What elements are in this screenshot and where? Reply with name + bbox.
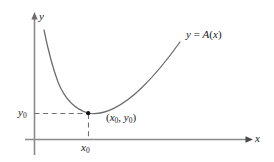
curve-label-close-paren: ) xyxy=(218,28,222,40)
point-label-close-paren: ) xyxy=(132,111,136,123)
y-axis-label: y xyxy=(39,11,44,22)
y-tick-label-subscript: 0 xyxy=(23,111,27,120)
y-axis xyxy=(31,12,37,155)
x-tick-label-x0: x0 xyxy=(81,142,90,153)
x-axis xyxy=(25,136,253,142)
y-tick-label-y0: y0 xyxy=(18,107,27,118)
y-axis-arrowhead-icon xyxy=(31,12,37,20)
graph-canvas xyxy=(0,0,274,162)
minimum-point-coordinate-label: (x0, y0) xyxy=(106,112,136,123)
curve-label-equals: = xyxy=(191,28,203,40)
function-curve xyxy=(44,30,180,114)
curve-equation-label: y = A(x) xyxy=(186,29,222,40)
x-tick-label-subscript: 0 xyxy=(86,146,90,155)
minimum-point-marker xyxy=(86,111,90,115)
function-graph-figure: y x y = A(x) (x0, y0) y0 x0 xyxy=(0,0,274,162)
x-axis-arrowhead-icon xyxy=(246,136,254,142)
x-axis-label: x xyxy=(255,133,260,144)
